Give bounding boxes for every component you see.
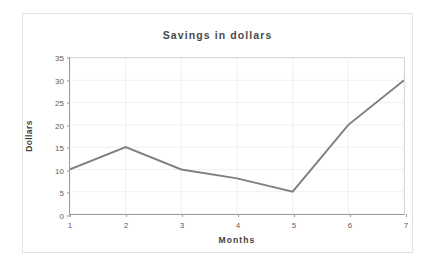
x-tick-mark bbox=[406, 214, 407, 217]
y-tick-label: 10 bbox=[55, 166, 64, 175]
y-tick-label: 20 bbox=[55, 121, 64, 130]
plot-area: 05101520253035 1234567 bbox=[69, 57, 405, 215]
chart-title: Savings in dollars bbox=[23, 29, 412, 41]
x-tick-label: 2 bbox=[124, 221, 128, 230]
y-tick-label: 30 bbox=[55, 76, 64, 85]
x-tick-mark bbox=[350, 214, 351, 217]
y-tick-mark bbox=[67, 170, 70, 171]
x-tick-mark bbox=[238, 214, 239, 217]
x-tick-label: 1 bbox=[68, 221, 72, 230]
y-tick-mark bbox=[67, 80, 70, 81]
y-tick-label: 0 bbox=[60, 212, 64, 221]
x-axis-title: Months bbox=[69, 235, 405, 245]
y-tick-label: 25 bbox=[55, 99, 64, 108]
x-tick-label: 5 bbox=[292, 221, 296, 230]
x-tick-mark bbox=[294, 214, 295, 217]
x-tick-label: 7 bbox=[404, 221, 408, 230]
y-axis-title: Dollars bbox=[24, 120, 34, 152]
y-tick-mark bbox=[67, 125, 70, 126]
y-tick-label: 5 bbox=[60, 189, 64, 198]
x-tick-label: 4 bbox=[236, 221, 240, 230]
y-tick-mark bbox=[67, 148, 70, 149]
x-tick-mark bbox=[182, 214, 183, 217]
y-tick-mark bbox=[67, 193, 70, 194]
chart-frame: Savings in dollars 05101520253035 123456… bbox=[22, 13, 413, 253]
x-tick-mark bbox=[70, 214, 71, 217]
x-tick-label: 6 bbox=[348, 221, 352, 230]
y-tick-label: 35 bbox=[55, 54, 64, 63]
x-tick-mark bbox=[126, 214, 127, 217]
data-line-series bbox=[70, 58, 404, 214]
y-tick-label: 15 bbox=[55, 144, 64, 153]
y-tick-mark bbox=[67, 58, 70, 59]
x-tick-label: 3 bbox=[180, 221, 184, 230]
y-tick-mark bbox=[67, 103, 70, 104]
